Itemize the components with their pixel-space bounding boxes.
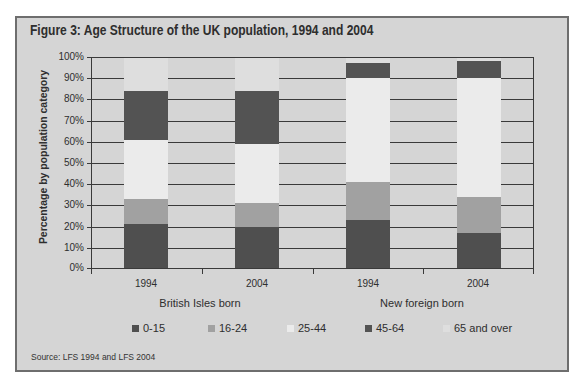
y-tick-label: 50% xyxy=(45,157,84,169)
y-tick-label: 90% xyxy=(45,72,84,84)
y-tick-label: 20% xyxy=(45,221,84,233)
y-tick-label: 30% xyxy=(45,199,84,211)
group-label-british-isles-born: British Isles born xyxy=(125,297,275,310)
x-tick-label: 1994 xyxy=(338,278,398,290)
y-tick-label: 0% xyxy=(45,262,84,274)
x-tick-mark xyxy=(423,269,424,274)
legend-item-65-and-over: 65 and over xyxy=(443,322,512,334)
bar-segment-45-64 xyxy=(124,91,168,140)
legend-label: 25-44 xyxy=(298,322,326,334)
bar-segment-16-24 xyxy=(457,197,501,233)
x-tick-mark xyxy=(313,269,314,274)
bar-segment-16-24 xyxy=(124,199,168,224)
bar-segment-16-24 xyxy=(346,182,390,220)
x-tick-label: 1994 xyxy=(116,278,176,290)
bar-2 xyxy=(346,57,390,269)
bar-segment-0-15 xyxy=(457,233,501,269)
bar-segment-65-and-over xyxy=(124,57,168,91)
bar-segment-45-64 xyxy=(457,61,501,78)
bar-0 xyxy=(124,57,168,269)
legend-swatch xyxy=(365,325,372,332)
y-tick-mark xyxy=(87,57,91,58)
chart-title: Figure 3: Age Structure of the UK popula… xyxy=(30,23,373,37)
legend-swatch xyxy=(208,325,215,332)
legend-label: 65 and over xyxy=(454,322,512,334)
legend-item-16-24: 16-24 xyxy=(208,322,247,334)
figure-panel: Figure 3: Age Structure of the UK popula… xyxy=(15,16,569,372)
x-tick-label: 2004 xyxy=(448,278,508,290)
x-tick-label: 2004 xyxy=(227,278,287,290)
bar-segment-65-and-over xyxy=(457,57,501,61)
legend-item-0-15: 0-15 xyxy=(132,322,165,334)
bar-3 xyxy=(457,57,501,269)
bar-segment-25-44 xyxy=(124,140,168,199)
y-tick-label: 60% xyxy=(45,136,84,148)
x-tick-mark xyxy=(91,269,92,274)
bar-segment-45-64 xyxy=(346,63,390,78)
bar-segment-25-44 xyxy=(457,78,501,197)
legend-item-45-64: 45-64 xyxy=(365,322,404,334)
x-tick-mark xyxy=(533,269,534,274)
group-label-new-foreign-born: New foreign born xyxy=(347,297,497,310)
bar-segment-25-44 xyxy=(235,144,279,203)
bar-segment-65-and-over xyxy=(235,57,279,91)
y-tick-label: 40% xyxy=(45,178,84,190)
bar-segment-16-24 xyxy=(235,203,279,226)
source-note: Source: LFS 1994 and LFS 2004 xyxy=(31,352,155,362)
bar-segment-45-64 xyxy=(235,91,279,144)
bar-segment-65-and-over xyxy=(346,57,390,63)
y-tick-label: 100% xyxy=(45,51,84,63)
bar-segment-25-44 xyxy=(346,78,390,182)
legend-item-25-44: 25-44 xyxy=(287,322,326,334)
legend-swatch xyxy=(132,325,139,332)
bar-segment-0-15 xyxy=(235,227,279,269)
y-tick-label: 80% xyxy=(45,93,84,105)
y-tick-label: 10% xyxy=(45,242,84,254)
legend-swatch xyxy=(287,325,294,332)
legend-label: 16-24 xyxy=(219,322,247,334)
legend-label: 45-64 xyxy=(376,322,404,334)
y-tick-label: 70% xyxy=(45,115,84,127)
x-tick-mark xyxy=(202,269,203,274)
bar-segment-0-15 xyxy=(124,224,168,269)
plot-area: 1994 2004 1994 2004 British Isles born N… xyxy=(91,57,534,269)
legend-swatch xyxy=(443,325,450,332)
bar-1 xyxy=(235,57,279,269)
bar-segment-0-15 xyxy=(346,220,390,269)
legend-label: 0-15 xyxy=(143,322,165,334)
